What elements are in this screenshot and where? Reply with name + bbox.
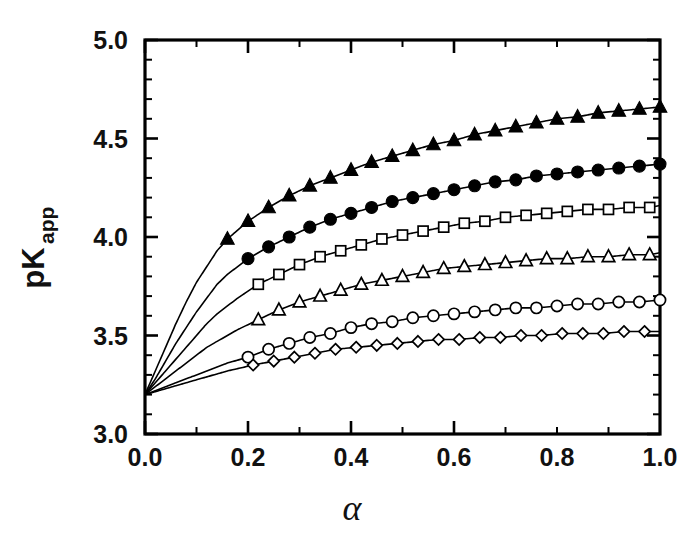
data-point-open-diamond [618,326,629,337]
data-point-open-square [377,234,387,244]
data-point-open-diamond [371,340,382,351]
data-point-open-diamond [289,352,300,363]
data-point-filled-circle [633,160,645,172]
y-tick-label: 3.5 [93,322,128,350]
data-point-open-square [459,218,469,228]
data-point-open-square [439,222,449,232]
x-tick-labels: 0.00.20.40.60.81.0 [128,443,678,471]
data-point-open-circle [469,306,480,317]
x-tick-label: 1.0 [643,443,678,471]
data-point-filled-triangle [262,200,276,213]
data-point-open-circle [654,294,665,305]
data-point-open-square [295,260,305,270]
data-point-open-circle [325,328,336,339]
data-point-open-circle [572,298,583,309]
curve-series-6 [145,332,660,395]
data-point-filled-circle [510,174,522,186]
data-point-open-diamond [392,338,403,349]
data-point-open-circle [407,312,418,323]
data-point-open-diamond [536,330,547,341]
y-tick-label: 5.0 [93,26,128,54]
curve-series-1 [145,107,660,395]
data-curves [145,107,660,395]
chart-svg: 0.00.20.40.60.81.0 3.03.54.04.55.0 α pK … [0,0,699,537]
data-point-open-square [624,202,634,212]
data-point-open-diamond [474,332,485,343]
x-tick-label: 0.8 [540,443,575,471]
data-point-open-circle [531,302,542,313]
data-point-filled-triangle [282,188,296,201]
data-point-filled-circle [242,253,254,265]
data-point-open-circle [613,296,624,307]
data-point-open-diamond [268,356,279,367]
data-point-filled-circle [324,213,336,225]
data-point-open-square [521,210,531,220]
data-point-open-diamond [330,344,341,355]
figure-container: 0.00.20.40.60.81.0 3.03.54.04.55.0 α pK … [0,0,699,537]
data-markers [221,100,667,371]
data-point-filled-circle [551,168,563,180]
data-point-filled-circle [427,188,439,200]
data-point-open-diamond [557,328,568,339]
data-point-open-diamond [454,334,465,345]
data-point-open-circle [448,308,459,319]
markers-series-3 [253,202,654,289]
data-point-filled-circle [263,241,275,253]
y-tick-label: 3.0 [93,420,128,448]
data-point-open-circle [387,316,398,327]
data-point-open-square [645,202,655,212]
data-point-open-circle [593,298,604,309]
data-point-open-diamond [309,348,320,359]
data-point-open-square [315,252,325,262]
y-tick-labels: 3.03.54.04.55.0 [93,26,128,448]
data-point-open-triangle [540,252,553,264]
data-point-open-square [418,226,428,236]
data-point-filled-circle [592,164,604,176]
data-point-open-square [562,206,572,216]
data-point-open-circle [490,304,501,315]
data-point-open-square [501,212,511,222]
data-point-filled-circle [448,184,460,196]
x-axis-title: α [343,488,363,528]
y-axis-title-group: pK app [16,207,58,289]
data-point-open-triangle [252,313,265,325]
markers-series-2 [242,158,666,265]
data-point-filled-circle [654,158,666,170]
data-point-filled-circle [572,166,584,178]
data-point-open-square [480,216,490,226]
data-point-open-square [398,230,408,240]
data-point-filled-circle [489,176,501,188]
data-point-open-circle [263,344,274,355]
data-point-filled-triangle [653,100,667,113]
data-point-open-triangle [623,248,636,260]
data-point-filled-triangle [241,214,255,227]
curve-series-5 [145,300,660,395]
data-point-filled-circle [469,180,481,192]
data-point-open-circle [428,310,439,321]
data-point-filled-circle [386,196,398,208]
data-point-open-circle [345,322,356,333]
y-axis-title: pK [16,247,51,289]
data-point-filled-triangle [221,232,235,245]
data-point-open-diamond [351,342,362,353]
data-point-open-square [253,279,263,289]
data-point-open-square [274,269,284,279]
x-tick-label: 0.0 [128,443,163,471]
data-point-filled-circle [345,207,357,219]
data-point-open-circle [634,296,645,307]
data-point-open-square [583,204,593,214]
data-point-open-square [604,204,614,214]
data-point-open-diamond [433,334,444,345]
x-tick-label: 0.4 [334,443,369,471]
y-axis-title-subscript: app [35,207,58,244]
data-point-open-square [356,240,366,250]
x-tick-label: 0.2 [231,443,266,471]
data-point-open-square [542,208,552,218]
y-tick-label: 4.0 [93,223,128,251]
x-tick-label: 0.6 [437,443,472,471]
data-point-open-diamond [495,332,506,343]
data-point-open-circle [366,318,377,329]
data-point-open-circle [304,332,315,343]
data-point-filled-circle [283,231,295,243]
data-point-open-diamond [412,336,423,347]
